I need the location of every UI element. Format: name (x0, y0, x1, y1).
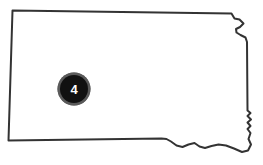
map-marker-4[interactable]: 4 (58, 73, 91, 106)
map-canvas: 4 (0, 0, 263, 165)
marker-label: 4 (70, 82, 78, 97)
state-outline-map: 4 (0, 0, 263, 165)
state-outline-path (9, 11, 252, 153)
